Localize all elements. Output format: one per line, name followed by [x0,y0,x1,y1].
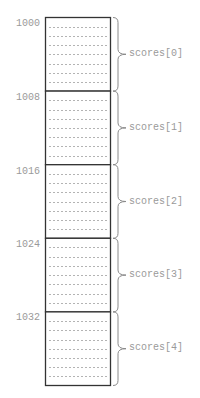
curly-brace-icon [113,91,126,165]
memory-block [46,165,111,239]
curly-brace-icon [113,165,126,239]
curly-brace-icon [113,238,126,312]
address-label: 1032 [0,313,40,323]
address-label: 1000 [0,19,40,29]
address-label: 1016 [0,167,40,177]
memory-diagram: 1000 1008 1016 1024 1032 scores[0] score… [0,0,200,398]
element-label: scores[2] [129,197,183,207]
element-label: scores[0] [129,49,183,59]
memory-block [46,91,111,165]
element-label: scores[3] [129,270,183,280]
element-label: scores[1] [129,123,183,133]
curly-brace-icon [113,312,126,386]
address-label: 1008 [0,93,40,103]
curly-brace-icon [113,18,126,92]
element-label: scores[4] [129,343,183,353]
memory-block [46,312,111,386]
address-label: 1024 [0,240,40,250]
